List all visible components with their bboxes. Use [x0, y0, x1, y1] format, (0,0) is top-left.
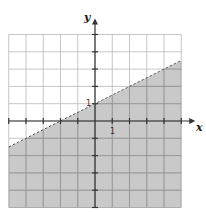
x-axis-arrow-icon: [189, 118, 195, 124]
coordinate-plane-graph: y x 1 1: [0, 0, 206, 212]
x-tick-label-1: 1: [110, 127, 115, 136]
y-axis-label: y: [83, 11, 92, 24]
y-axis-arrow-icon: [92, 19, 98, 25]
x-axis-label: x: [195, 121, 203, 134]
y-tick-label-1: 1: [86, 99, 91, 108]
